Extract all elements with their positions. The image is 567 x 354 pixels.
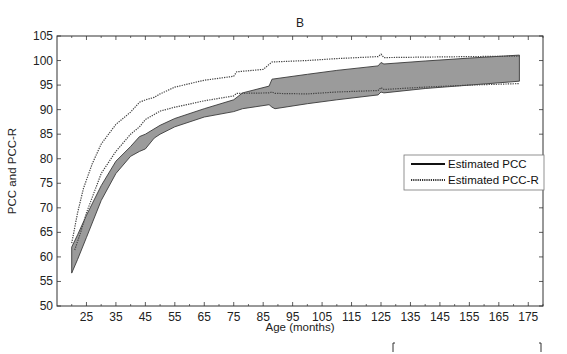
chart-canvas: B 25354555657585951051151251351451551651… <box>0 0 567 354</box>
chart-title: B <box>296 16 304 30</box>
y-tick-label: 105 <box>33 29 53 43</box>
y-tick-label: 80 <box>40 152 54 166</box>
y-tick-label: 75 <box>40 176 54 190</box>
x-tick-label: 175 <box>518 310 538 324</box>
x-tick-label: 55 <box>168 310 182 324</box>
x-tick-label: 135 <box>400 310 420 324</box>
x-tick-label: 45 <box>139 310 153 324</box>
x-tick-label: 25 <box>80 310 94 324</box>
x-tick-label: 165 <box>489 310 509 324</box>
y-axis-label: PCC and PCC-R <box>6 128 18 214</box>
legend: Estimated PCC Estimated PCC-R <box>404 155 544 190</box>
y-tick-label: 65 <box>40 225 54 239</box>
y-tick-label: 60 <box>40 250 54 264</box>
x-axis-label: Age (months) <box>265 321 334 333</box>
x-tick-label: 115 <box>342 310 361 324</box>
x-tick-label: 65 <box>198 310 212 324</box>
y-tick-label: 50 <box>40 299 54 313</box>
y-tick-label: 95 <box>40 78 54 92</box>
legend-item-pcc: Estimated PCC <box>448 158 527 170</box>
left-bracket-mark <box>393 343 395 352</box>
x-tick-label: 155 <box>459 310 479 324</box>
legend-item-pcc-r: Estimated PCC-R <box>448 174 539 186</box>
x-tick-label: 75 <box>227 310 241 324</box>
y-tick-label: 85 <box>40 127 54 141</box>
y-tick-label: 100 <box>33 54 53 68</box>
x-tick-label: 145 <box>430 310 450 324</box>
y-tick-label: 70 <box>40 201 54 215</box>
right-bracket-mark <box>539 343 541 352</box>
bottom-bracket-marks <box>393 343 541 352</box>
y-tick-label: 55 <box>40 274 54 288</box>
y-tick-label: 90 <box>40 103 54 117</box>
x-tick-label: 125 <box>371 310 391 324</box>
x-tick-label: 35 <box>109 310 123 324</box>
